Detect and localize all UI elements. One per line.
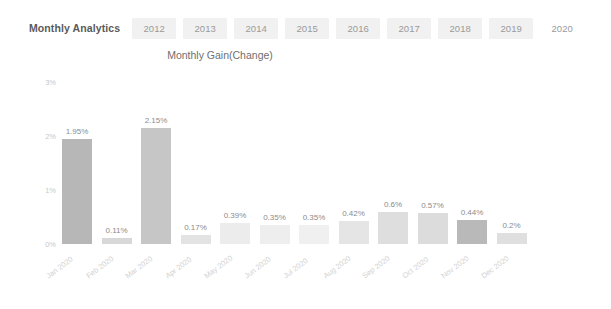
bar-value-label: 0.2% bbox=[502, 221, 520, 230]
tab-year-2014[interactable]: 2014 bbox=[234, 18, 278, 39]
tab-year-2017[interactable]: 2017 bbox=[387, 18, 431, 39]
y-axis-tick: 1% bbox=[30, 186, 56, 195]
bar-column[interactable]: 0.35% bbox=[260, 203, 290, 244]
bar-value-label: 0.35% bbox=[303, 213, 326, 222]
x-axis-tick-label: Apr 2020 bbox=[163, 255, 193, 281]
tab-year-2016[interactable]: 2016 bbox=[336, 18, 380, 39]
x-axis-tick-label: Feb 2020 bbox=[84, 254, 115, 280]
x-axis-tick-label: Aug 2020 bbox=[321, 254, 352, 281]
bar-value-label: 0.39% bbox=[224, 211, 247, 220]
bar-column[interactable]: 0.35% bbox=[299, 203, 329, 244]
bar-value-label: 0.44% bbox=[461, 208, 484, 217]
page-title: Monthly Analytics bbox=[29, 22, 120, 34]
y-axis-tick: 0% bbox=[30, 240, 56, 249]
bar[interactable] bbox=[260, 225, 290, 244]
bar-value-label: 0.42% bbox=[342, 209, 365, 218]
bar-column[interactable]: 0.42% bbox=[339, 199, 369, 244]
bar-column[interactable]: 0.44% bbox=[457, 198, 487, 244]
y-axis-tick: 2% bbox=[30, 132, 56, 141]
bar-value-label: 0.11% bbox=[105, 226, 127, 235]
x-axis-tick-label: May 2020 bbox=[202, 253, 234, 280]
bar[interactable] bbox=[181, 235, 211, 244]
plot-area: 0%1%2%3% 1.95%0.11%2.15%0.17%0.39%0.35%0… bbox=[0, 44, 611, 309]
bar[interactable] bbox=[62, 139, 92, 244]
bar[interactable] bbox=[497, 233, 527, 244]
bar-column[interactable]: 0.6% bbox=[378, 190, 408, 244]
bar[interactable] bbox=[299, 225, 329, 244]
bar-value-label: 0.57% bbox=[421, 201, 444, 210]
tab-year-2015[interactable]: 2015 bbox=[285, 18, 329, 39]
tab-year-2019[interactable]: 2019 bbox=[489, 18, 533, 39]
bar[interactable] bbox=[457, 220, 487, 244]
x-axis-tick-label: Mar 2020 bbox=[123, 254, 154, 280]
y-axis-tick: 3% bbox=[30, 78, 56, 87]
tab-year-2012[interactable]: 2012 bbox=[132, 18, 176, 39]
x-axis-tick-label: Jun 2020 bbox=[242, 255, 272, 281]
year-tab-list: 201220132014201520162017201820192020 bbox=[132, 18, 591, 39]
x-axis-tick-label: Sep 2020 bbox=[360, 254, 391, 281]
bar-column[interactable]: 2.15% bbox=[141, 106, 171, 244]
bar-column[interactable]: 0.57% bbox=[418, 191, 448, 244]
bar-column[interactable]: 0.39% bbox=[220, 201, 250, 244]
x-axis-tick-label: Jul 2020 bbox=[281, 256, 309, 280]
chart-region: Monthly Gain(Change) 0%1%2%3% 1.95%0.11%… bbox=[0, 44, 611, 309]
bar[interactable] bbox=[378, 212, 408, 244]
bar[interactable] bbox=[339, 221, 369, 244]
bar-value-label: 0.17% bbox=[184, 223, 207, 232]
bar-column[interactable]: 1.95% bbox=[62, 117, 92, 244]
bar[interactable] bbox=[418, 213, 448, 244]
x-axis-tick-label: Oct 2020 bbox=[400, 255, 430, 281]
bar-column[interactable]: 0.11% bbox=[102, 216, 132, 244]
bar-value-label: 1.95% bbox=[66, 127, 89, 136]
bar-value-label: 2.15% bbox=[145, 116, 168, 125]
bar-value-label: 0.35% bbox=[263, 213, 286, 222]
bar[interactable] bbox=[220, 223, 250, 244]
x-axis: Jan 2020Feb 2020Mar 2020Apr 2020May 2020… bbox=[62, 244, 542, 309]
bar-value-label: 0.6% bbox=[384, 200, 402, 209]
tab-year-2013[interactable]: 2013 bbox=[183, 18, 227, 39]
x-axis-tick-label: Jan 2020 bbox=[44, 255, 74, 281]
tab-year-2020[interactable]: 2020 bbox=[540, 18, 584, 39]
bar-column[interactable]: 0.17% bbox=[181, 213, 211, 244]
x-axis-tick-label: Dec 2020 bbox=[479, 254, 510, 281]
bar[interactable] bbox=[141, 128, 171, 244]
x-axis-tick-label: Nov 2020 bbox=[439, 254, 470, 281]
bar-column[interactable]: 0.2% bbox=[497, 211, 527, 244]
tab-year-2018[interactable]: 2018 bbox=[438, 18, 482, 39]
analytics-header-bar: Monthly Analytics 2012201320142015201620… bbox=[0, 14, 611, 42]
